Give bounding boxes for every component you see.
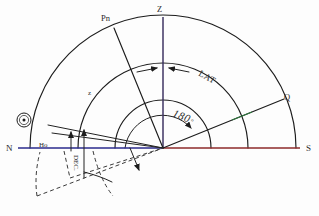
latitude-label: LAT <box>197 68 218 86</box>
latitude-arrow-left <box>137 68 157 72</box>
declination-tick-arc <box>84 172 112 182</box>
celestial-equator-line <box>163 99 284 148</box>
declination-label: DEC. <box>72 155 80 171</box>
sun-icon <box>17 113 31 127</box>
zenith-distance-label: z <box>88 89 91 97</box>
celestial-diagram-root: Z Pn Q N S Ho DEC. LAT z 180° <box>0 0 319 216</box>
north-label: N <box>6 143 13 153</box>
equator-point-label: Q <box>284 92 290 102</box>
polar-axis-line <box>114 28 163 148</box>
celestial-equator-green-tint <box>232 112 252 120</box>
latitude-arrow-right <box>169 68 189 72</box>
south-label: S <box>306 143 311 153</box>
sun-altitude-ray <box>48 125 163 148</box>
altitude-label: Ho <box>39 141 48 149</box>
lower-hemisphere-arrow <box>130 148 139 170</box>
celestial-sphere-diagram: Z Pn Q N S Ho DEC. LAT z 180° <box>0 0 319 216</box>
below-horizon-dashed-left <box>64 151 70 178</box>
below-horizon-dashed-outer <box>36 152 40 196</box>
north-pole-label: Pn <box>101 13 111 23</box>
zenith-label: Z <box>157 4 162 14</box>
secondary-body-ray <box>52 133 163 148</box>
